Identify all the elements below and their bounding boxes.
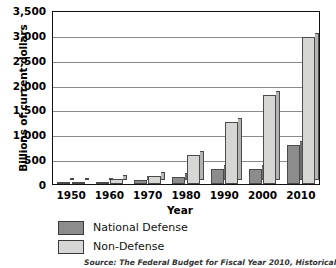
bar-non-defense bbox=[187, 155, 200, 184]
legend-item-non-defense: Non-Defense bbox=[58, 238, 318, 255]
bar-national-defense bbox=[134, 180, 147, 184]
x-axis-title: Year bbox=[0, 204, 336, 216]
bar-face bbox=[211, 169, 224, 184]
bar-national-defense bbox=[172, 177, 185, 184]
bar-face bbox=[263, 95, 276, 184]
bar-non-defense bbox=[263, 95, 276, 184]
bar-face bbox=[249, 169, 262, 184]
plot-area bbox=[52, 11, 320, 185]
bar-non-defense bbox=[110, 179, 123, 184]
y-tick-label: 2,000 bbox=[0, 81, 46, 92]
legend-label-national-defense: National Defense bbox=[93, 221, 188, 234]
legend-item-national-defense: National Defense bbox=[58, 219, 318, 236]
bar-face bbox=[148, 176, 161, 184]
bar-side-shade bbox=[200, 151, 204, 180]
bar-face bbox=[225, 122, 238, 184]
bar-group bbox=[53, 12, 91, 184]
bar-national-defense bbox=[96, 182, 109, 184]
bar-side-shade bbox=[70, 178, 74, 180]
bar-group bbox=[130, 12, 168, 184]
bar-face bbox=[287, 145, 300, 184]
bar-face bbox=[187, 155, 200, 184]
y-tick-label: 1,500 bbox=[0, 105, 46, 116]
bar-group bbox=[244, 12, 282, 184]
source-note: Source: The Federal Budget for Fiscal Ye… bbox=[84, 258, 336, 267]
bar-face bbox=[172, 177, 185, 184]
bar-national-defense bbox=[249, 169, 262, 184]
bar-face bbox=[134, 180, 147, 184]
bar-side-shade bbox=[123, 175, 127, 180]
x-tick-label: 2010 bbox=[274, 189, 328, 201]
y-tick-label: 1,000 bbox=[0, 130, 46, 141]
bar-national-defense bbox=[287, 145, 300, 184]
bar-non-defense bbox=[148, 176, 161, 184]
y-tick-label: 3,000 bbox=[0, 31, 46, 42]
bar-non-defense bbox=[302, 37, 315, 184]
legend-swatch-non-defense bbox=[58, 240, 84, 254]
bar-face bbox=[96, 182, 109, 184]
y-tick-label: 3,500 bbox=[0, 6, 46, 17]
bar-side-shade bbox=[85, 178, 89, 180]
bar-face bbox=[110, 179, 123, 184]
bar-side-shade bbox=[161, 172, 165, 180]
bar-non-defense bbox=[72, 182, 85, 184]
bar-face bbox=[302, 37, 315, 184]
y-tick-label: 0 bbox=[0, 180, 46, 191]
bar-group bbox=[168, 12, 206, 184]
legend-swatch-national-defense bbox=[58, 221, 84, 235]
bar-national-defense bbox=[57, 182, 70, 184]
bar-national-defense bbox=[211, 169, 224, 184]
bar-group bbox=[206, 12, 244, 184]
bar-face bbox=[72, 182, 85, 184]
bar-group bbox=[91, 12, 129, 184]
bar-non-defense bbox=[225, 122, 238, 184]
bar-side-shade bbox=[315, 33, 319, 180]
y-tick-label: 2,500 bbox=[0, 56, 46, 67]
bar-side-shade bbox=[276, 91, 280, 180]
y-tick-label: 500 bbox=[0, 155, 46, 166]
bar-side-shade bbox=[238, 118, 242, 180]
bar-group bbox=[283, 12, 321, 184]
chart-legend: National Defense Non-Defense bbox=[58, 219, 318, 257]
legend-label-non-defense: Non-Defense bbox=[93, 240, 164, 253]
bar-chart-figure: Billions of current dollars 05001,0001,5… bbox=[0, 0, 336, 268]
bar-face bbox=[57, 182, 70, 184]
